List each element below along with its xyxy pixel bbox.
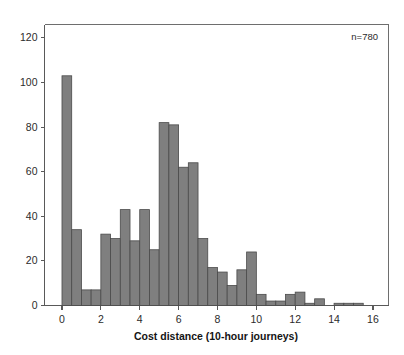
- x-tick-label: 6: [176, 313, 182, 325]
- histogram-figure: 020406080100120 0246810121416 n=780 Cost…: [0, 0, 404, 355]
- histogram-bar: [344, 303, 354, 305]
- histogram-bar: [72, 230, 82, 306]
- y-tick-label: 40: [26, 210, 38, 222]
- y-tick-label: 0: [32, 299, 38, 311]
- histogram-bar: [334, 303, 344, 305]
- histogram-bar: [354, 303, 364, 305]
- histogram-bar: [247, 252, 257, 306]
- x-tick-label: 14: [328, 313, 340, 325]
- histogram-bar: [62, 76, 72, 306]
- x-tick-label: 10: [250, 313, 262, 325]
- histogram-bar: [198, 239, 208, 306]
- y-tick-label: 60: [26, 165, 38, 177]
- histogram-bar: [91, 290, 101, 306]
- histogram-bar: [159, 123, 169, 306]
- histogram-bar: [315, 299, 325, 306]
- histogram-bar: [140, 210, 150, 306]
- sample-size-annotation: n=780: [351, 31, 378, 42]
- histogram-bar: [149, 250, 159, 306]
- y-tick-label: 80: [26, 121, 38, 133]
- histogram-bar: [227, 285, 237, 305]
- x-tick-label: 16: [367, 313, 379, 325]
- histogram-bar: [179, 167, 189, 305]
- x-tick-label: 0: [59, 313, 65, 325]
- histogram-bar: [101, 234, 111, 305]
- histogram-bar: [188, 163, 198, 306]
- x-axis-title: Cost distance (10-hour journeys): [134, 330, 298, 342]
- y-tick-label: 100: [20, 76, 38, 88]
- histogram-bar: [130, 241, 140, 306]
- histogram-svg: 020406080100120 0246810121416 n=780 Cost…: [0, 0, 404, 355]
- histogram-bar: [217, 272, 227, 305]
- histogram-bar: [295, 292, 305, 305]
- histogram-bar: [81, 290, 91, 306]
- y-tick-label: 20: [26, 254, 38, 266]
- histogram-bar: [208, 268, 218, 306]
- histogram-bar: [111, 239, 121, 306]
- histogram-bar: [169, 125, 179, 306]
- histogram-bar: [237, 270, 247, 306]
- x-tick-label: 2: [98, 313, 104, 325]
- x-tick-label: 12: [289, 313, 301, 325]
- y-tick-label: 120: [20, 31, 38, 43]
- histogram-bar: [305, 303, 315, 305]
- histogram-bar: [256, 294, 266, 305]
- x-tick-label: 8: [215, 313, 221, 325]
- histogram-bar: [266, 301, 276, 305]
- x-tick-label: 4: [137, 313, 143, 325]
- histogram-bar: [276, 301, 286, 305]
- histogram-bar: [285, 294, 295, 305]
- histogram-bar: [120, 210, 130, 306]
